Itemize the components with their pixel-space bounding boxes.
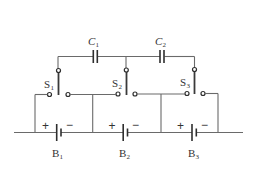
battery-b2-subscript: 2 (127, 153, 131, 161)
top-wire (58, 57, 195, 70)
switch-s3-subscript: 3 (187, 82, 191, 90)
battery-b3-subscript: 3 (196, 153, 200, 161)
switch-s1-label: S (44, 78, 50, 90)
battery-b2-label: B (119, 147, 126, 159)
switch-s1[interactable]: S 1 (44, 69, 70, 97)
battery-b1-minus: − (66, 118, 73, 132)
capacitor-c1-subscript: 1 (96, 41, 100, 49)
switch-s2[interactable]: S 2 (112, 68, 137, 96)
battery-b1-plus: + (42, 119, 49, 133)
circuit-diagram: C 1 C 2 S 1 S 2 S 3 (0, 0, 260, 172)
battery-b1: + − B 1 (42, 118, 73, 161)
battery-b1-label: B (52, 147, 59, 159)
battery-b3-minus: − (201, 118, 208, 132)
contact-wires (35, 94, 218, 133)
switch-s2-subscript: 2 (119, 83, 123, 91)
battery-b2-minus: − (132, 118, 139, 132)
capacitor-c2: C 2 (155, 35, 167, 63)
capacitor-c1: C 1 (88, 35, 100, 63)
battery-b3: + − B 3 (177, 118, 208, 161)
battery-b2-plus: + (109, 119, 116, 133)
battery-b1-subscript: 1 (60, 153, 64, 161)
switch-s3[interactable]: S 3 (180, 68, 205, 96)
switch-s1-subscript: 1 (51, 84, 55, 92)
battery-b3-plus: + (177, 119, 184, 133)
battery-b3-label: B (188, 147, 195, 159)
battery-b2: + − B 2 (109, 118, 140, 161)
switch-s3-label: S (180, 76, 186, 88)
capacitor-c2-subscript: 2 (163, 41, 167, 49)
switch-s2-label: S (112, 77, 118, 89)
